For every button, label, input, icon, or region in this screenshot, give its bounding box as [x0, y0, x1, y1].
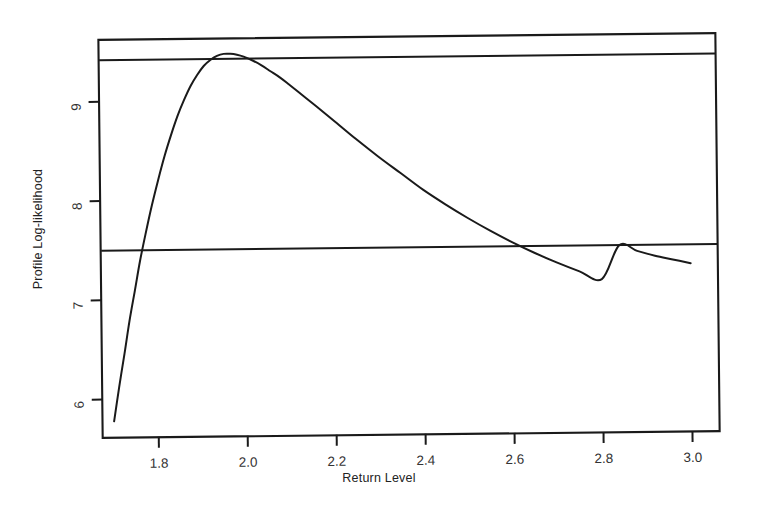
x-tick-label: 2.0	[239, 455, 258, 470]
x-tick-label: 2.8	[594, 451, 613, 466]
y-tick-label: 7	[71, 302, 86, 310]
profile-likelihood-curve	[110, 49, 692, 422]
x-tick-label: 1.8	[150, 456, 169, 471]
upper-reference-line	[99, 54, 715, 61]
y-axis-tick-labels: 6789	[69, 103, 87, 408]
x-tick-label: 3.0	[683, 450, 702, 465]
y-tick-label: 6	[72, 401, 87, 409]
profile-likelihood-figure: 1.82.02.22.42.62.83.0 6789 Return Level …	[0, 0, 758, 509]
plot-canvas: 1.82.02.22.42.62.83.0 6789	[0, 0, 758, 509]
y-tick-label: 8	[70, 203, 85, 211]
x-tick-label: 2.4	[416, 453, 435, 468]
y-tick-label: 9	[69, 103, 84, 111]
plot-frame	[98, 33, 719, 438]
y-axis-title: Profile Log-likelihood	[31, 129, 45, 329]
x-axis-title: Return Level	[0, 471, 758, 485]
x-tick-label: 2.6	[505, 452, 524, 467]
x-axis-tick-labels: 1.82.02.22.42.62.83.0	[150, 450, 703, 471]
x-tick-label: 2.2	[327, 454, 346, 469]
confidence-interval-line	[101, 244, 717, 251]
